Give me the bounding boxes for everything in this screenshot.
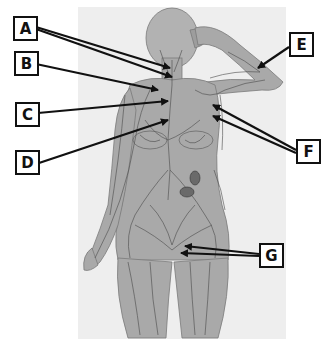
label-f: F [296,139,321,164]
lymphatic-system-illustration [0,0,330,350]
label-b: B [14,51,39,76]
label-d: D [15,150,40,175]
label-c: C [15,102,40,127]
label-a: A [13,16,38,41]
label-e: E [289,32,314,57]
label-g: G [259,243,284,268]
